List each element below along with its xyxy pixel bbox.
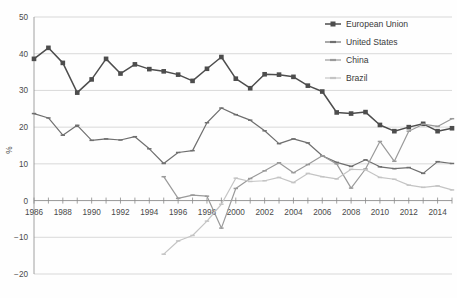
x-tick-label: 1986 (25, 208, 44, 217)
data-point (46, 46, 51, 51)
legend-label: European Union (346, 19, 408, 29)
data-point (89, 77, 94, 82)
y-tick-label: 10 (19, 160, 29, 169)
data-point (104, 57, 109, 62)
x-tick-label: 1992 (111, 208, 130, 217)
x-tick-label: 2004 (284, 208, 303, 217)
y-tick-label: −10 (14, 233, 28, 242)
y-tick-label: −20 (14, 270, 28, 279)
legend: European UnionUnited StatesChinaBrazil (325, 19, 408, 83)
x-tick-label: 2008 (342, 208, 361, 217)
x-tick-label: 2000 (227, 208, 246, 217)
y-axis-title: % (5, 146, 14, 153)
legend-label: Brazil (346, 73, 368, 83)
data-point (205, 66, 210, 71)
x-tick-label: 2010 (371, 208, 390, 217)
data-point (176, 72, 181, 77)
data-point (133, 62, 138, 67)
data-point (190, 79, 195, 84)
x-tick-label: 1994 (140, 208, 159, 217)
y-tick-label: 20 (19, 123, 29, 132)
data-point (233, 76, 238, 81)
data-point (450, 126, 455, 131)
data-point (248, 86, 253, 91)
data-point (75, 90, 80, 95)
chart-canvas: 50403020100−10−2019861988199019921994199… (0, 0, 457, 298)
y-tick-label: 0 (23, 197, 28, 206)
data-point (219, 55, 224, 60)
y-tick-label: 40 (19, 50, 29, 59)
y-tick-label: 50 (19, 13, 29, 22)
data-point (277, 72, 282, 77)
data-point (306, 83, 311, 88)
legend-item-brazil[interactable]: Brazil (325, 73, 368, 83)
data-point (147, 67, 152, 72)
data-point (349, 111, 354, 116)
data-point (161, 69, 166, 74)
data-point (378, 123, 383, 128)
x-tick-label: 2012 (400, 208, 419, 217)
series-line (34, 48, 452, 131)
data-point (118, 71, 123, 76)
legend-label: China (346, 55, 369, 65)
x-tick-label: 2014 (428, 208, 447, 217)
legend-item-china[interactable]: China (325, 55, 369, 65)
data-point (435, 129, 440, 134)
series-european-union (32, 46, 455, 134)
x-tick-label: 1996 (169, 208, 188, 217)
legend-item-european-union[interactable]: European Union (325, 19, 408, 29)
legend-label: United States (346, 37, 398, 47)
data-point (291, 75, 296, 80)
gridlines: 50403020100−10−20 (14, 13, 452, 279)
data-point (32, 57, 37, 62)
data-point (334, 110, 339, 115)
data-point (320, 89, 325, 94)
legend-item-united-states[interactable]: United States (325, 37, 398, 47)
y-tick-label: 30 (19, 86, 29, 95)
data-point (406, 125, 411, 130)
data-point (262, 72, 267, 77)
line-chart: 50403020100−10−2019861988199019921994199… (0, 0, 457, 298)
x-tick-label: 2006 (313, 208, 332, 217)
x-tick-label: 2002 (256, 208, 275, 217)
data-point (392, 129, 397, 134)
legend-swatch-marker (331, 22, 336, 27)
data-point (363, 110, 368, 115)
x-tick-label: 1988 (54, 208, 73, 217)
data-point (61, 61, 66, 66)
x-tick-label: 1990 (83, 208, 102, 217)
